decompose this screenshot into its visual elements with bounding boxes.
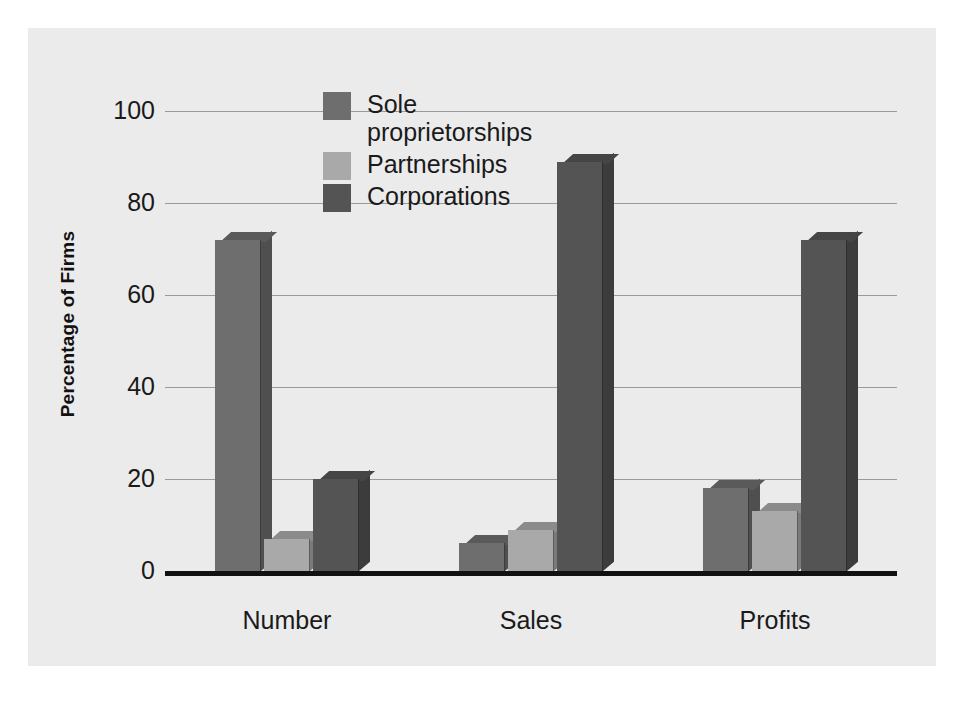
y-tick-label: 80 [63,190,155,215]
category-label: Number [187,606,387,635]
bar [313,479,359,571]
bar [508,530,554,571]
bar-front-face [215,240,261,571]
legend-swatch [323,152,351,180]
legend: Sole proprietorshipsPartnershipsCorporat… [323,90,532,214]
bar-front-face [752,511,798,571]
chart-figure: 020406080100 NumberSalesProfits Percenta… [0,0,974,702]
legend-item: Corporations [323,182,532,210]
bar-front-face [557,162,603,571]
bar-side-face [359,470,370,571]
bar-front-face [508,530,554,571]
chart-panel: 020406080100 NumberSalesProfits Percenta… [28,28,936,666]
category-label: Profits [675,606,875,635]
legend-swatch [323,184,351,212]
x-axis-line [165,571,897,576]
bar-front-face [703,488,749,571]
bar [215,240,261,571]
legend-label: Partnerships [367,150,532,178]
y-axis-title: Percentage of Firms [57,214,79,434]
bar [264,539,310,571]
y-tick-label: 0 [63,558,155,583]
bar [557,162,603,571]
bar-front-face [313,479,359,571]
legend-item: Sole proprietorships [323,90,532,146]
legend-label: Sole proprietorships [367,90,532,146]
bar-front-face [459,543,505,571]
category-label: Sales [431,606,631,635]
plot-area: 020406080100 NumberSalesProfits Percenta… [28,28,936,666]
y-tick-label: 100 [63,98,155,123]
bar-front-face [801,240,847,571]
bar [801,240,847,571]
legend-label: Corporations [367,182,532,210]
legend-swatch [323,92,351,120]
bar [703,488,749,571]
gridline [165,295,897,296]
gridline [165,387,897,388]
legend-item: Partnerships [323,150,532,178]
bar-side-face [261,231,272,571]
bar-front-face [264,539,310,571]
y-tick-label: 20 [63,466,155,491]
bar [459,543,505,571]
gridline [165,479,897,480]
bar-side-face [847,231,858,571]
bar [752,511,798,571]
bar-side-face [603,152,614,571]
